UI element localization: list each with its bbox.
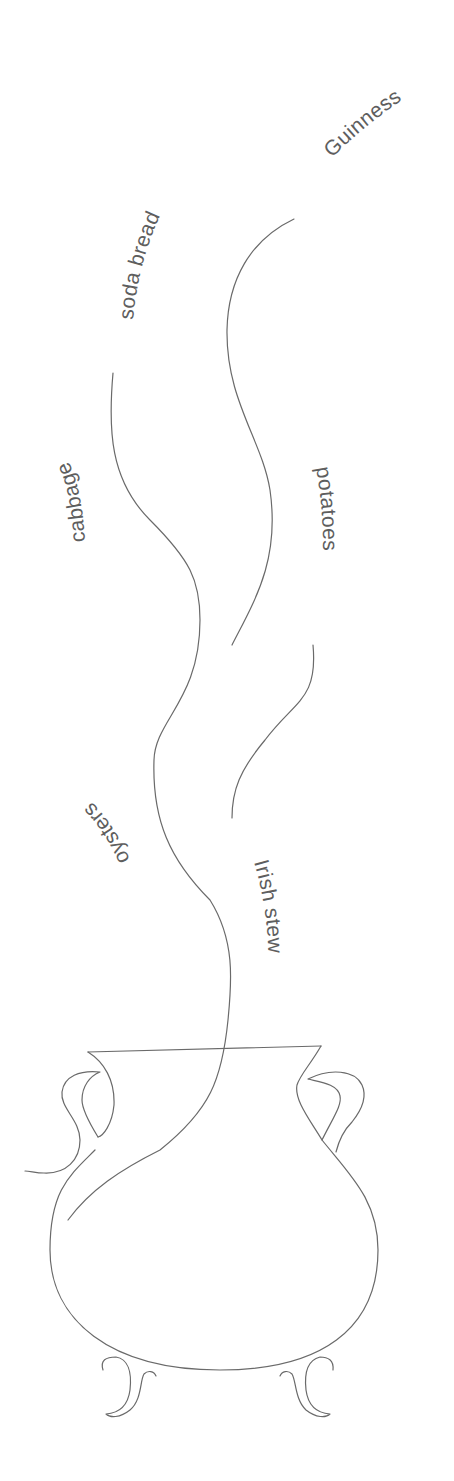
steam-line-left <box>68 373 231 1220</box>
cauldron-body <box>50 1046 378 1370</box>
cauldron <box>25 1046 378 1417</box>
labels: Guinness soda bread cabbage potatoes oys… <box>51 84 405 954</box>
cauldron-diagram: Guinness soda bread cabbage potatoes oys… <box>0 0 454 1481</box>
cauldron-handle-right <box>308 1072 364 1152</box>
label-oysters: oysters <box>77 799 133 868</box>
cauldron-rim <box>88 1046 321 1052</box>
label-irish-stew: Irish stew <box>250 857 287 954</box>
cauldron-handle-left <box>25 1072 100 1173</box>
label-soda-bread: soda bread <box>114 207 164 320</box>
steam-line-short <box>232 645 314 818</box>
label-guinness: Guinness <box>319 84 405 161</box>
steam-lines <box>68 219 314 1220</box>
label-cabbage: cabbage <box>51 459 89 543</box>
steam-line-right <box>227 219 294 645</box>
cauldron-leg-right <box>280 1357 333 1417</box>
label-potatoes: potatoes <box>312 465 342 552</box>
cauldron-leg-left <box>102 1357 156 1417</box>
